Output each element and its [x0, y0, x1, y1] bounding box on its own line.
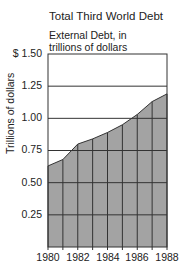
- x-tick-1980: 1980: [33, 251, 63, 263]
- x-tick-1988: 1988: [152, 251, 182, 263]
- area-chart: [0, 0, 188, 277]
- x-tick-1984: 1984: [93, 251, 123, 263]
- x-tick-1982: 1982: [63, 251, 93, 263]
- x-tick-1986: 1986: [122, 251, 152, 263]
